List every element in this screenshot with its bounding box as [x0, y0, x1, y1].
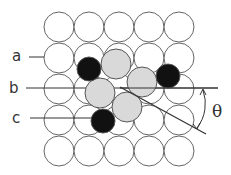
black-adatom — [91, 109, 115, 133]
lattice-atom — [74, 12, 104, 42]
lattice-atom — [44, 136, 74, 166]
lattice-atom — [134, 136, 164, 166]
gray-adatom — [101, 49, 131, 79]
lattice-atom — [164, 12, 194, 42]
arc-arrowhead-top-icon — [200, 89, 206, 95]
lattice-atom — [44, 74, 74, 104]
lattice-atom — [164, 105, 194, 135]
angle-arc — [197, 90, 205, 128]
lattice-atom — [44, 43, 74, 73]
lattice-atom — [134, 12, 164, 42]
label-b: b — [9, 79, 19, 97]
lattice-atom — [44, 105, 74, 135]
lattice-diagram: a b c θ — [0, 0, 231, 175]
lattice-atom — [164, 136, 194, 166]
gray-adatom — [85, 78, 115, 108]
label-c: c — [12, 109, 20, 127]
lattice-atom — [104, 12, 134, 42]
label-theta: θ — [212, 101, 222, 121]
lattice-atom — [104, 136, 134, 166]
background-atom-grid — [44, 12, 194, 166]
lattice-atom — [44, 12, 74, 42]
black-adatom — [156, 64, 180, 88]
black-adatom — [77, 57, 101, 81]
label-a: a — [12, 47, 21, 65]
lattice-atom — [74, 136, 104, 166]
